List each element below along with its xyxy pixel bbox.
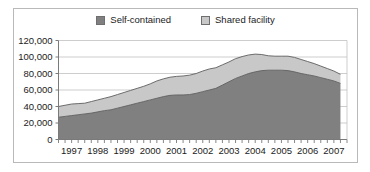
chart-svg: 020,00040,00060,00080,000100,000120,000 …: [0, 0, 370, 172]
y-tick-label: 60,000: [23, 84, 52, 95]
y-tick-label: 0: [47, 134, 52, 145]
x-tick-label: 1997: [61, 145, 82, 156]
chart-y-tick-labels: 020,00040,00060,00080,000100,000120,000: [18, 35, 52, 145]
x-tick-label: 2005: [271, 145, 292, 156]
chart-area-series: [59, 54, 341, 139]
x-tick-label: 2003: [218, 145, 239, 156]
x-tick-label: 2006: [297, 145, 318, 156]
x-tick-label: 2007: [323, 145, 344, 156]
chart-x-tick-labels: 1997199819992000200120022003200420052006…: [61, 145, 344, 156]
y-tick-label: 80,000: [23, 68, 52, 79]
chart-x-minor-ticks: [59, 140, 348, 144]
chart-plot-area: 020,00040,00060,00080,000100,000120,000 …: [0, 0, 370, 172]
chart-figure: Self-contained Shared facility 020,00040…: [0, 0, 370, 172]
x-tick-label: 2004: [245, 145, 266, 156]
x-tick-label: 2000: [140, 145, 161, 156]
y-tick-label: 40,000: [23, 101, 52, 112]
x-tick-label: 2001: [166, 145, 187, 156]
y-tick-label: 100,000: [18, 51, 52, 62]
x-tick-label: 1998: [87, 145, 108, 156]
x-tick-label: 1999: [113, 145, 134, 156]
y-tick-label: 120,000: [18, 35, 52, 46]
y-tick-label: 20,000: [23, 117, 52, 128]
x-tick-label: 2002: [192, 145, 213, 156]
